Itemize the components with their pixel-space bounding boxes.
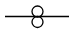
transformer-icon bbox=[0, 0, 75, 34]
secondary-coil-circle bbox=[32, 17, 43, 28]
primary-coil-circle bbox=[32, 6, 43, 17]
transformer-symbol-diagram bbox=[0, 0, 75, 34]
